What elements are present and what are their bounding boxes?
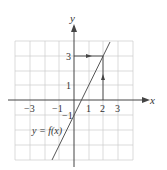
x-axis-label: x [149,94,155,106]
y-tick: −1 [62,110,73,121]
x-tick: 3 [115,103,120,114]
y-axis-label: y [69,12,75,24]
axes [8,26,145,167]
function-graph: x y −3 −1 1 2 3 3 1 −1 y = f(x) [0,0,167,170]
x-tick: 1 [86,103,91,114]
y-tick: 3 [66,51,71,62]
curve-label: y = f(x) [31,125,63,137]
y-tick: 1 [66,80,71,91]
x-axis-arrow-icon [142,97,150,103]
function-line [52,42,110,160]
guide-lines [74,56,103,100]
arrow-up-icon [101,74,105,80]
y-axis-arrow-icon [71,24,77,32]
x-tick: −3 [24,103,35,114]
x-tick: 2 [100,103,105,114]
